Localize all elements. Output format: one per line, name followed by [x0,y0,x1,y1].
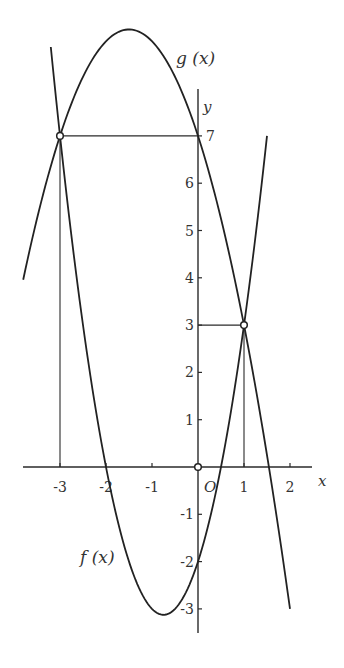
guide-lines [60,136,244,467]
y-tick-label: 3 [185,317,194,333]
origin-label: O [204,478,216,496]
intersection-point [195,464,202,471]
points [57,133,248,471]
y-tick-label: -3 [180,601,194,617]
y-tick-label: 6 [185,175,194,191]
x-tick-label: -3 [53,479,67,495]
y-tick-label: 2 [185,364,194,380]
y-tick-label: -2 [180,554,194,570]
y-tick-label: 1 [185,412,194,428]
y-tick-label: 5 [185,223,194,239]
f-curve [51,47,267,615]
y-tick-label: 7 [206,128,215,144]
x-tick-label: 2 [286,479,295,495]
axes [23,89,312,633]
intersection-point [241,322,248,329]
x-tick-label: -1 [145,479,159,495]
curves [23,29,290,614]
function-graph: -3-2-1127654321-1-2-3 x y O g (x) f (x) [0,0,344,668]
y-axis-label: y [202,98,212,116]
intersection-point [57,133,64,140]
y-tick-label: 4 [185,270,194,286]
f-function-label: f (x) [78,547,115,567]
y-tick-label: -1 [180,506,194,522]
x-axis-label: x [318,472,327,490]
g-curve [23,29,290,608]
g-function-label: g (x) [176,48,215,68]
x-tick-label: 1 [240,479,249,495]
